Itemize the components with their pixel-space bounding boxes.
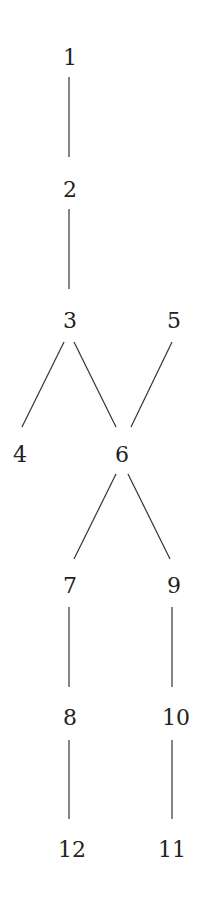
edge-3-6 [74,342,116,427]
edge-6-7 [74,474,116,559]
node-6: 6 [115,444,129,466]
node-9: 9 [167,575,181,597]
node-4: 4 [13,444,27,466]
node-2: 2 [63,179,77,201]
node-11: 11 [158,839,186,861]
edge-3-4 [22,342,64,427]
node-1: 1 [63,47,77,69]
node-10: 10 [162,707,190,729]
diagram-edges [0,0,208,916]
node-7: 7 [63,575,77,597]
node-5: 5 [167,310,181,332]
edge-6-9 [128,474,170,559]
node-12: 12 [58,839,86,861]
node-3: 3 [63,310,77,332]
node-8: 8 [63,707,77,729]
edge-5-6 [131,342,172,427]
